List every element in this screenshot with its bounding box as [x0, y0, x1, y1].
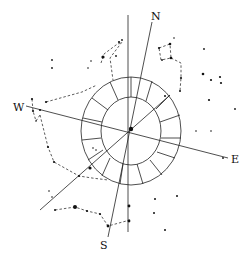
upper-right-tail — [171, 58, 181, 91]
west-east-axis — [26, 106, 228, 158]
diagonal-axis — [40, 95, 170, 210]
stone-circle-diagram: N S E W — [0, 0, 250, 257]
north-label: N — [151, 10, 161, 23]
upper-right-constellation — [159, 44, 171, 60]
south-chain — [55, 207, 130, 226]
upper-left-constellation — [101, 42, 122, 80]
stars — [31, 37, 236, 231]
axes — [26, 15, 228, 237]
east-label: E — [231, 153, 239, 166]
west-constellation — [46, 85, 97, 102]
south-label: S — [100, 239, 108, 252]
west-label: W — [13, 101, 25, 114]
constellations — [32, 42, 181, 226]
